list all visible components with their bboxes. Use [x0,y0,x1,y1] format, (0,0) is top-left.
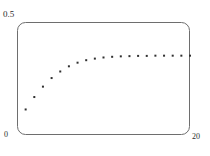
data-point [137,55,139,57]
data-point [128,55,130,57]
axis-origin-label: 0 [4,131,8,139]
data-point [85,59,87,61]
data-point [51,77,53,79]
data-point [68,65,70,67]
data-point [77,62,79,64]
data-point [94,58,96,60]
y-axis-max-label: 0.5 [3,10,14,19]
plot-frame [18,23,190,135]
data-point [146,55,148,57]
plot-area [0,0,210,156]
data-point [154,55,156,57]
x-axis-max-label: 20 [192,133,200,141]
data-point [189,55,191,57]
data-point-group [25,55,191,111]
data-point [111,56,113,58]
chart-container: 0.5 0 20 [0,0,210,156]
data-point [59,70,61,72]
data-point [33,96,35,98]
data-point [120,55,122,57]
data-point [42,86,44,88]
data-point [25,108,27,110]
data-point [172,55,174,57]
data-point [163,55,165,57]
data-point [180,55,182,57]
data-point [103,56,105,58]
